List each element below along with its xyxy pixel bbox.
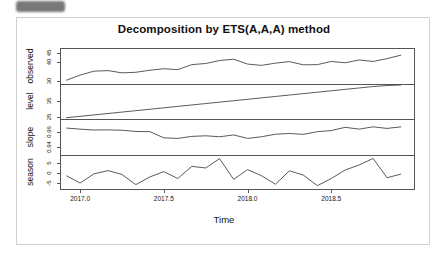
x-tick-label: 2017.5 bbox=[154, 195, 174, 202]
y-tick-label: 0.96 bbox=[46, 126, 52, 138]
y-tick-label: 0.94 bbox=[46, 141, 52, 153]
y-tick-label: 45 bbox=[46, 49, 52, 56]
chart-title: Decomposition by ETS(A,A,A) method bbox=[17, 23, 431, 35]
series-season bbox=[60, 155, 415, 191]
panel-label-level: level bbox=[25, 93, 35, 110]
figure-card: Decomposition by ETS(A,A,A) method obser… bbox=[16, 17, 430, 245]
panel-label-season: season bbox=[25, 159, 35, 186]
x-tick-mark bbox=[164, 190, 165, 193]
x-tick-label: 2017.0 bbox=[70, 195, 90, 202]
y-tick-label: 30 bbox=[46, 77, 52, 84]
y-tick-label: 40 bbox=[46, 59, 52, 66]
x-tick-label: 2018.0 bbox=[238, 195, 258, 202]
series-slope bbox=[60, 119, 415, 155]
x-tick-mark bbox=[331, 190, 332, 193]
x-tick-mark bbox=[80, 190, 81, 193]
y-tick-label: 5 bbox=[46, 161, 52, 164]
y-tick-label: 25 bbox=[46, 113, 52, 120]
x-tick-mark bbox=[248, 190, 249, 193]
y-tick-label: 35 bbox=[46, 98, 52, 105]
series-level bbox=[60, 84, 415, 120]
x-tick-label: 2018.5 bbox=[321, 195, 341, 202]
x-axis-label: Time bbox=[17, 214, 431, 225]
panel-label-slope: slope bbox=[25, 127, 35, 147]
y-tick-label: -5 bbox=[46, 180, 52, 185]
panel-label-observed: observed bbox=[25, 48, 35, 83]
series-observed bbox=[60, 48, 415, 84]
top-badge[interactable] bbox=[16, 1, 65, 12]
y-tick-label: 0 bbox=[46, 171, 52, 174]
